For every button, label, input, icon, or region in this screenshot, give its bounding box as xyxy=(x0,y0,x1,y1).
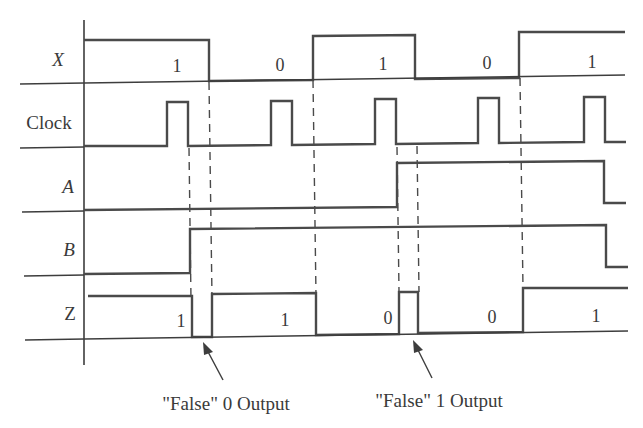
x-value-label: 0 xyxy=(276,55,285,75)
x-value-label: 1 xyxy=(588,52,597,72)
x-value-label: 1 xyxy=(379,54,388,74)
arrow-icon xyxy=(413,340,432,378)
signal-label-clock: Clock xyxy=(26,112,72,133)
waveform-a xyxy=(84,161,626,210)
baseline-z xyxy=(84,331,628,339)
waveform-clock xyxy=(84,97,626,146)
z-value-label: 1 xyxy=(592,306,601,326)
signal-label-b: B xyxy=(63,239,75,260)
x-value-label: 1 xyxy=(173,56,182,76)
row-separator-x xyxy=(20,83,84,84)
arrow-icon xyxy=(203,342,223,380)
waveform-x xyxy=(84,32,625,81)
z-value-label: 1 xyxy=(177,311,186,331)
signal-label-a: A xyxy=(60,176,74,197)
x-value-label: 0 xyxy=(483,53,492,73)
annotation-false-0-output: "False" 0 Output xyxy=(162,393,290,414)
baseline-x xyxy=(84,75,625,83)
signal-label-x: X xyxy=(51,49,65,70)
dashed-guides xyxy=(189,78,523,300)
timing-diagram: X Clock A B Z 1 0 1 0 1 1 1 0 0 1 "False… xyxy=(0,0,643,428)
waveform-b xyxy=(84,225,628,274)
signal-label-z: Z xyxy=(64,303,76,324)
guide-line xyxy=(209,82,212,298)
guide-line xyxy=(189,148,191,300)
waveform-z xyxy=(88,288,628,337)
guide-line xyxy=(417,146,419,292)
guide-line xyxy=(313,80,316,296)
z-value-label: 0 xyxy=(488,307,497,327)
guide-line xyxy=(520,78,523,289)
annotation-false-1-output: "False" 1 Output xyxy=(375,390,503,411)
row-separator-z xyxy=(25,339,84,340)
z-value-label: 0 xyxy=(384,308,393,328)
row-separator-b xyxy=(24,275,84,276)
row-separator-a xyxy=(22,211,84,212)
z-value-label: 1 xyxy=(281,310,290,330)
row-separator-clock xyxy=(20,147,84,148)
